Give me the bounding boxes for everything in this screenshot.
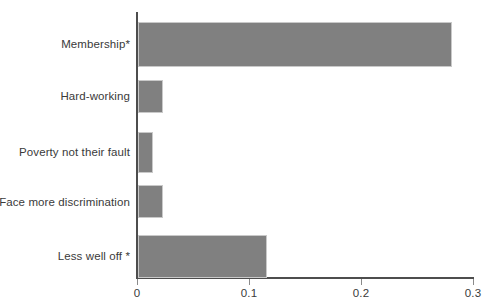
x-axis-tick-label-0: 0 [134, 287, 141, 299]
category-label-less-well-off: Less well off * [58, 250, 130, 262]
bar-less-well-off [138, 235, 267, 278]
bar-hard-working [138, 80, 163, 113]
x-axis-tick-1 [249, 279, 250, 285]
x-axis-tick-3 [473, 279, 474, 285]
x-axis-tick-2 [361, 279, 362, 285]
bar-membership [138, 22, 452, 67]
x-axis-tick-label-2: 0.2 [353, 287, 370, 299]
bar-poverty-not-their-fault [138, 132, 153, 173]
category-label-face-more-discrimination: Face more discrimination [0, 196, 130, 208]
category-label-membership: Membership* [61, 38, 130, 50]
bar-chart: 0 0.1 0.2 0.3 Membership* Hard-working P… [0, 0, 502, 308]
x-axis-tick-label-3: 0.3 [465, 287, 482, 299]
bar-face-more-discrimination [138, 185, 163, 218]
x-axis-tick-0 [137, 279, 138, 285]
category-label-hard-working: Hard-working [60, 90, 130, 102]
category-label-poverty-not-their-fault: Poverty not their fault [19, 146, 130, 158]
x-axis-tick-label-1: 0.1 [241, 287, 258, 299]
